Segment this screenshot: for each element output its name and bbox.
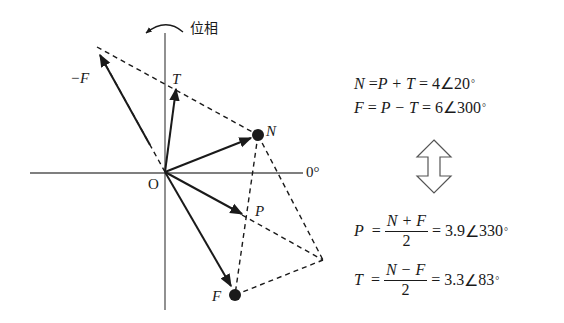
n-label: N xyxy=(266,124,276,139)
n-endpoint-dot xyxy=(252,129,264,141)
double-vertical-arrow-icon xyxy=(417,140,451,193)
equation-n: N = P + T = 4 ∠ 20° xyxy=(354,74,475,93)
phasor-vectors xyxy=(100,55,251,286)
rotation-label: 位相 xyxy=(190,21,218,35)
t-label: T xyxy=(172,72,180,87)
construction-lines xyxy=(97,47,323,295)
f-endpoint-dot xyxy=(229,289,241,301)
equation-p: P = N + F 2 = 3.9 ∠ 330° xyxy=(354,213,508,250)
rotation-direction-arrow-icon xyxy=(146,25,183,33)
fraction-t: N − F 2 xyxy=(384,262,427,299)
vector-minus-f xyxy=(100,55,150,145)
fraction-p: N + F 2 xyxy=(385,213,428,250)
equation-f: F = P − T = 6 ∠ 300° xyxy=(354,98,486,117)
origin-label: O xyxy=(148,177,159,192)
vector-t xyxy=(165,89,176,172)
f-label: F xyxy=(212,289,221,304)
equation-t: T = N − F 2 = 3.3 ∠ 83° xyxy=(354,262,499,299)
vector-n xyxy=(165,138,251,172)
minus-f-label: −F xyxy=(70,71,89,86)
p-label: P xyxy=(255,204,264,219)
zero-degree-label: 0° xyxy=(306,165,320,180)
